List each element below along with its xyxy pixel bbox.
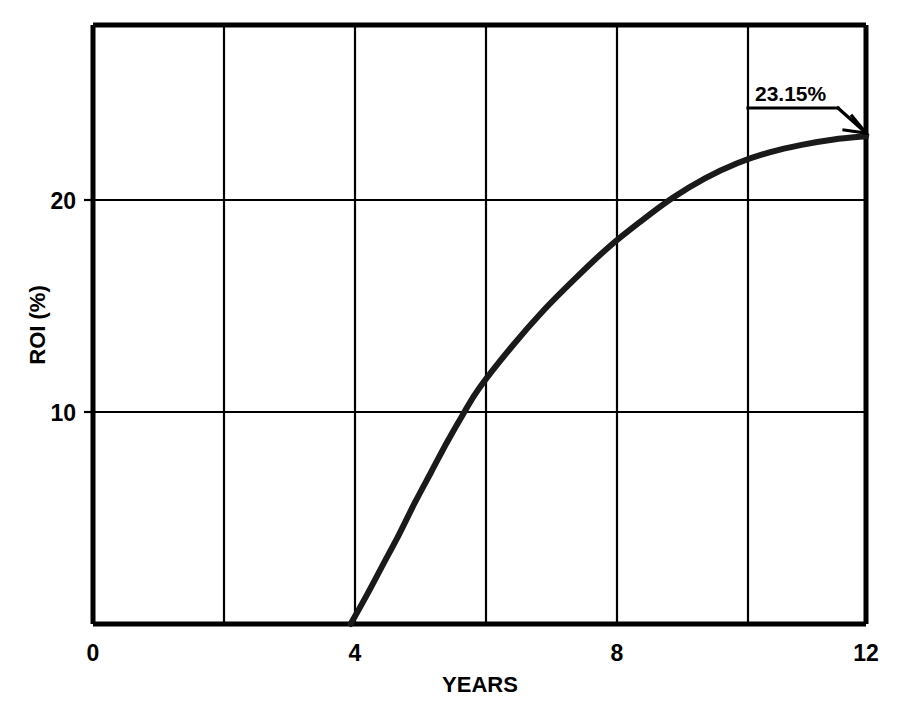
chart-background	[0, 0, 911, 706]
y-tick-label-20: 20	[50, 188, 76, 214]
endpoint-value-label: 23.15%	[755, 82, 827, 105]
x-tick-label-8: 8	[611, 640, 624, 666]
x-axis-title: YEARS	[442, 672, 518, 697]
chart-container: 23.15% 20 10 ROI (%) 0 4 8 12 YEARS	[0, 0, 911, 706]
roi-vs-years-line-chart: 23.15% 20 10 ROI (%) 0 4 8 12 YEARS	[0, 0, 911, 706]
x-tick-label-4: 4	[349, 640, 362, 666]
x-tick-label-0: 0	[87, 640, 100, 666]
x-tick-label-12: 12	[853, 640, 879, 666]
y-tick-label-10: 10	[50, 400, 76, 426]
y-axis-title: ROI (%)	[25, 285, 50, 364]
